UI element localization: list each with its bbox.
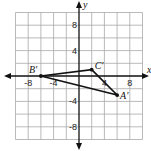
vertex-point	[90, 68, 94, 72]
x-axis-arrow-left-icon	[4, 73, 11, 79]
y-tick-label: 8	[72, 20, 77, 30]
y-axis-arrow-up-icon	[76, 1, 82, 8]
y-tick-label: 4	[72, 46, 77, 56]
y-axis-arrow-down-icon	[76, 143, 82, 150]
vertex-label: B'	[29, 64, 38, 75]
y-tick-label: -8	[69, 122, 77, 132]
vertex-label: C'	[95, 60, 105, 71]
vertex-point	[39, 74, 43, 78]
coordinate-plane: xy-8-44884-4-8A'B'C'	[0, 0, 151, 151]
x-tick-label: -8	[24, 78, 32, 88]
y-axis-label: y	[82, 0, 88, 10]
vertex-point	[115, 93, 119, 97]
x-axis-label: x	[146, 64, 151, 75]
y-tick-label: -4	[69, 96, 77, 106]
x-tick-label: 8	[127, 78, 132, 88]
vertex-label: A'	[119, 90, 129, 101]
